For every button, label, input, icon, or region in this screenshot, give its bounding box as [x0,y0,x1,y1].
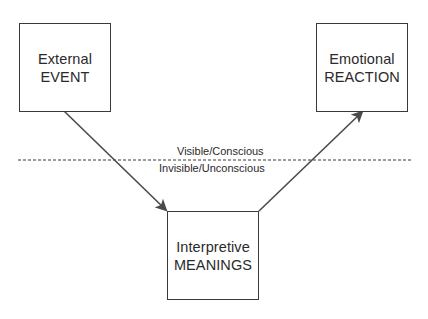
divider-label-invisible: Invisible/Unconscious [159,162,265,174]
node-label-line1: External [38,50,92,68]
node-label-line1: Emotional [329,50,394,68]
node-label-line2: EVENT [41,68,90,86]
divider-label-visible: Visible/Conscious [177,145,264,157]
node-label-line2: REACTION [324,68,400,86]
node-label-line2: MEANINGS [174,256,252,274]
arrow-meanings-to-reaction [259,112,362,211]
node-emotional-reaction: Emotional REACTION [316,23,408,112]
node-label-line1: Interpretive [176,238,250,256]
node-interpretive-meanings: Interpretive MEANINGS [167,211,259,300]
node-external-event: External EVENT [19,23,111,112]
